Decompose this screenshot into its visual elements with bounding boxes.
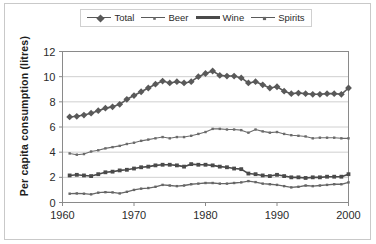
svg-text:1990: 1990 xyxy=(265,209,289,221)
y-tick-labels: 024681012 xyxy=(43,46,62,209)
svg-text:12: 12 xyxy=(43,46,55,58)
svg-text:1970: 1970 xyxy=(122,209,146,221)
svg-text:1980: 1980 xyxy=(193,209,217,221)
data-series-layer xyxy=(66,68,352,196)
x-tick-labels: 19601970198019902000 xyxy=(50,209,360,221)
chart-figure: Total Beer Wine Spirits Per capita consu… xyxy=(0,0,376,244)
series-total xyxy=(66,68,352,121)
svg-text:2: 2 xyxy=(49,171,55,183)
svg-text:4: 4 xyxy=(49,146,55,158)
x-tick-marks xyxy=(63,203,349,207)
series-spirits xyxy=(68,180,349,196)
svg-text:0: 0 xyxy=(49,197,55,209)
svg-text:6: 6 xyxy=(49,121,55,133)
plot-area: 024681012 19601970198019902000 xyxy=(0,0,376,244)
svg-text:8: 8 xyxy=(49,96,55,108)
svg-text:1960: 1960 xyxy=(50,209,74,221)
svg-text:2000: 2000 xyxy=(336,209,360,221)
series-beer xyxy=(68,128,349,156)
svg-text:10: 10 xyxy=(43,71,55,83)
